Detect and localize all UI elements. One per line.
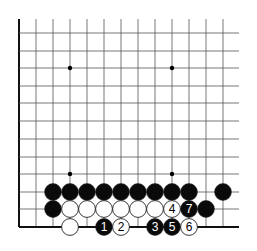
white-stone	[147, 201, 164, 218]
black-stone	[147, 184, 164, 201]
star-point	[170, 172, 174, 176]
black-stone	[130, 184, 147, 201]
black-stone	[45, 184, 62, 201]
black-stone	[164, 184, 181, 201]
black-stone	[181, 184, 198, 201]
black-stone	[79, 184, 96, 201]
white-stone	[113, 201, 130, 218]
black-stone	[96, 184, 113, 201]
star-point	[68, 172, 72, 176]
black-stone	[62, 184, 79, 201]
move-number: 6	[186, 220, 193, 234]
white-stone	[130, 201, 147, 218]
black-stone-move-1: 1	[96, 219, 113, 236]
white-stone	[96, 201, 113, 218]
go-board: 4712356	[0, 0, 257, 251]
move-number: 4	[169, 202, 176, 216]
white-stone	[62, 201, 79, 218]
black-stone	[45, 201, 62, 218]
white-stone-move-6: 6	[181, 219, 198, 236]
white-stone	[79, 201, 96, 218]
star-point	[170, 66, 174, 70]
white-stone-move-2: 2	[113, 219, 130, 236]
move-number: 1	[101, 220, 108, 234]
move-number: 5	[169, 220, 176, 234]
move-number: 3	[152, 220, 159, 234]
white-stone-move-4: 4	[164, 201, 181, 218]
move-number: 2	[118, 220, 125, 234]
black-stone	[113, 184, 130, 201]
white-stone	[62, 219, 79, 236]
black-stone-move-5: 5	[164, 219, 181, 236]
black-stone-move-3: 3	[147, 219, 164, 236]
star-point	[68, 66, 72, 70]
black-stone	[198, 201, 215, 218]
black-stone-move-7: 7	[181, 201, 198, 218]
move-number: 7	[186, 202, 193, 216]
black-stone	[215, 184, 232, 201]
